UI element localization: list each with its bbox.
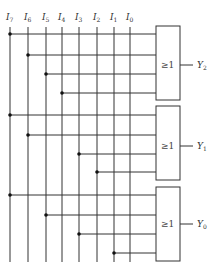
junction-dot — [44, 72, 48, 76]
input-label: I1 — [109, 12, 117, 23]
input-label: I5 — [41, 12, 50, 23]
input-label: I0 — [125, 12, 134, 23]
encoder-circuit-diagram: I7I6I5I4I3I2I1I0≥1Y2≥1Y1≥1Y0 — [0, 0, 216, 272]
input-line-i6: I6 — [23, 12, 32, 262]
junction-dot — [8, 113, 12, 117]
junction-dot — [77, 152, 81, 156]
or-gate-y2: ≥1Y2 — [8, 26, 207, 100]
gate-symbol: ≥1 — [161, 219, 174, 229]
input-label: I7 — [5, 12, 14, 23]
input-line-i5: I5 — [41, 12, 50, 262]
or-gate-y1: ≥1Y1 — [8, 106, 207, 180]
input-line-i7: I7 — [5, 12, 14, 262]
input-line-i3: I3 — [74, 12, 83, 262]
output-label: Y2 — [197, 60, 207, 71]
junction-dot — [95, 170, 99, 174]
gate-symbol: ≥1 — [161, 141, 174, 151]
input-line-i4: I4 — [57, 12, 66, 262]
input-label: I6 — [23, 12, 32, 23]
junction-dot — [112, 251, 116, 255]
output-label: Y0 — [197, 219, 207, 230]
junction-dot — [77, 232, 81, 236]
input-line-i1: I1 — [109, 12, 117, 262]
junction-dot — [26, 133, 30, 137]
output-label: Y1 — [197, 141, 207, 152]
junction-dot — [8, 32, 12, 36]
junction-dot — [60, 91, 64, 95]
input-line-i2: I2 — [92, 12, 101, 262]
input-label: I2 — [92, 12, 101, 23]
input-label: I4 — [57, 12, 66, 23]
junction-dot — [26, 53, 30, 57]
input-label: I3 — [74, 12, 83, 23]
junction-dot — [8, 193, 12, 197]
junction-dot — [44, 213, 48, 217]
gate-symbol: ≥1 — [161, 60, 174, 70]
or-gate-y0: ≥1Y0 — [8, 187, 207, 261]
input-line-i0: I0 — [125, 12, 134, 262]
